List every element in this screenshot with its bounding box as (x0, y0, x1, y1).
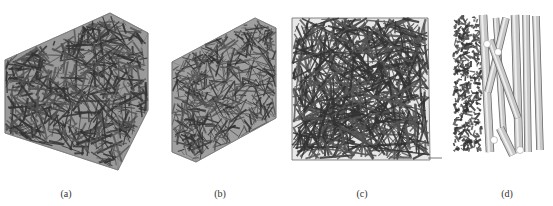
panel-d-label: (d) (501, 188, 513, 199)
panel-a-label: (a) (60, 188, 71, 199)
figure-canvas (0, 0, 553, 206)
panel-b-label: (b) (214, 188, 226, 199)
panel-c-label: (c) (356, 188, 367, 199)
panel-c-top-view (292, 18, 442, 160)
panel-d-side-view (453, 15, 540, 155)
panel-b-fiber-box (172, 18, 276, 162)
panel-a-fiber-box (5, 13, 148, 170)
